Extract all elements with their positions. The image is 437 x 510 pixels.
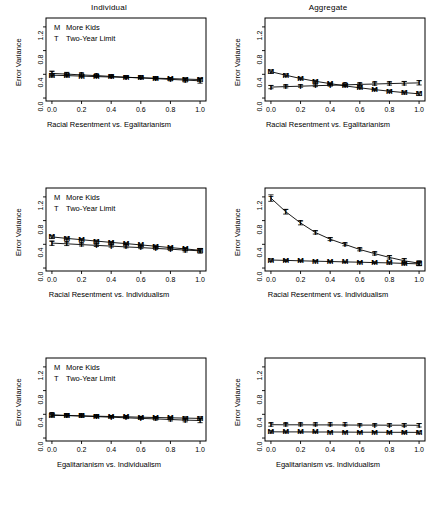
legend: MMore KidsTTwo-Year Limit bbox=[54, 362, 115, 384]
y-axis-label: Error Variance bbox=[233, 38, 242, 86]
data-marker-T: T bbox=[313, 420, 318, 429]
data-marker-T: T bbox=[153, 244, 158, 253]
legend-symbol: T bbox=[54, 374, 66, 383]
data-marker-T: T bbox=[79, 411, 84, 420]
data-marker-T: T bbox=[343, 240, 348, 249]
legend-symbol: T bbox=[54, 204, 66, 213]
legend-item: MMore Kids bbox=[54, 22, 115, 33]
data-marker-T: T bbox=[49, 69, 54, 78]
data-marker-M: M bbox=[401, 88, 408, 97]
data-marker-T: T bbox=[328, 420, 333, 429]
chart-panel-row2-right: 0.00.40.81.20.00.20.40.60.81.0MMMMMMMMMM… bbox=[219, 170, 437, 340]
data-marker-T: T bbox=[94, 241, 99, 250]
data-marker-T: T bbox=[124, 242, 129, 251]
data-marker-T: T bbox=[183, 416, 188, 425]
x-axis-label: Racial Resentment vs. Egalitarianism bbox=[219, 120, 437, 129]
plot-area: MMMMMMMMMMMTTTTTTTTTTT bbox=[219, 170, 437, 340]
data-marker-T: T bbox=[357, 245, 362, 254]
data-marker-T: T bbox=[109, 242, 114, 251]
data-marker-T: T bbox=[168, 245, 173, 254]
data-marker-M: M bbox=[268, 67, 275, 76]
data-marker-T: T bbox=[328, 235, 333, 244]
data-marker-T: T bbox=[109, 72, 114, 81]
data-marker-T: T bbox=[387, 421, 392, 430]
data-marker-T: T bbox=[268, 194, 273, 203]
data-marker-T: T bbox=[298, 82, 303, 91]
data-marker-T: T bbox=[298, 218, 303, 227]
data-marker-T: T bbox=[372, 421, 377, 430]
legend-label: More Kids bbox=[66, 23, 100, 32]
data-marker-T: T bbox=[138, 414, 143, 423]
y-axis-label: Error Variance bbox=[233, 378, 242, 426]
x-axis-label: Egalitarianism vs. Individualism bbox=[219, 460, 437, 469]
data-marker-T: T bbox=[343, 420, 348, 429]
chart-panel-row3-left: 0.00.40.81.20.00.20.40.60.81.0MMMMMMMMMM… bbox=[0, 340, 218, 510]
legend-label: More Kids bbox=[66, 193, 100, 202]
x-axis-label: Egalitarianism vs. Individualism bbox=[0, 460, 218, 469]
data-marker-T: T bbox=[372, 79, 377, 88]
data-marker-T: T bbox=[124, 413, 129, 422]
data-marker-T: T bbox=[94, 412, 99, 421]
data-marker-T: T bbox=[402, 79, 407, 88]
legend-item: MMore Kids bbox=[54, 362, 115, 373]
data-marker-T: T bbox=[313, 228, 318, 237]
data-marker-T: T bbox=[138, 243, 143, 252]
data-marker-M: M bbox=[312, 257, 319, 266]
legend: MMore KidsTTwo-Year Limit bbox=[54, 22, 115, 44]
data-marker-T: T bbox=[198, 76, 203, 85]
figure-grid: Individual0.00.40.81.20.00.20.40.60.81.0… bbox=[0, 0, 437, 510]
data-marker-T: T bbox=[387, 253, 392, 262]
data-marker-T: T bbox=[283, 420, 288, 429]
data-marker-T: T bbox=[372, 249, 377, 258]
data-marker-T: T bbox=[79, 70, 84, 79]
data-marker-T: T bbox=[283, 207, 288, 216]
data-marker-T: T bbox=[343, 80, 348, 89]
legend-symbol: M bbox=[54, 23, 66, 32]
x-axis-label: Racial Resentment vs. Egalitarianism bbox=[0, 120, 218, 129]
legend-item: TTwo-Year Limit bbox=[54, 33, 115, 44]
data-marker-T: T bbox=[138, 73, 143, 82]
data-marker-M: M bbox=[297, 256, 304, 265]
data-marker-T: T bbox=[402, 421, 407, 430]
chart-panel-row1-right: Aggregate0.00.40.81.20.00.20.40.60.81.0M… bbox=[219, 0, 437, 170]
y-axis-label: Error Variance bbox=[233, 208, 242, 256]
legend-label: Two-Year Limit bbox=[66, 34, 115, 43]
y-axis-label: Error Variance bbox=[14, 38, 23, 86]
data-marker-T: T bbox=[198, 416, 203, 425]
data-marker-T: T bbox=[283, 82, 288, 91]
data-marker-T: T bbox=[79, 240, 84, 249]
data-marker-M: M bbox=[282, 256, 289, 265]
data-marker-T: T bbox=[168, 75, 173, 84]
data-marker-M: M bbox=[327, 257, 334, 266]
data-marker-M: M bbox=[356, 258, 363, 267]
data-marker-T: T bbox=[357, 80, 362, 89]
data-marker-T: T bbox=[417, 259, 422, 268]
plot-area: MMMMMMMMMMMTTTTTTTTTTT bbox=[219, 0, 437, 170]
data-marker-T: T bbox=[183, 76, 188, 85]
data-marker-T: T bbox=[124, 73, 129, 82]
legend-item: TTwo-Year Limit bbox=[54, 373, 115, 384]
y-axis-label: Error Variance bbox=[14, 208, 23, 256]
plot-area: MMMMMMMMMMMTTTTTTTTTTT bbox=[219, 340, 437, 510]
legend-symbol: T bbox=[54, 34, 66, 43]
data-marker-M: M bbox=[342, 257, 349, 266]
data-marker-T: T bbox=[313, 81, 318, 90]
chart-panel-row3-right: 0.00.40.81.20.00.20.40.60.81.0MMMMMMMMMM… bbox=[219, 340, 437, 510]
data-marker-T: T bbox=[198, 246, 203, 255]
data-marker-T: T bbox=[64, 70, 69, 79]
x-axis-label: Racial Resentment vs. Individualism bbox=[219, 290, 437, 299]
legend: MMore KidsTTwo-Year Limit bbox=[54, 192, 115, 214]
data-marker-T: T bbox=[417, 78, 422, 87]
data-marker-T: T bbox=[417, 421, 422, 430]
data-marker-T: T bbox=[268, 83, 273, 92]
data-marker-T: T bbox=[387, 79, 392, 88]
data-marker-M: M bbox=[371, 258, 378, 267]
y-axis-label: Error Variance bbox=[14, 378, 23, 426]
data-marker-T: T bbox=[64, 411, 69, 420]
data-marker-T: T bbox=[109, 413, 114, 422]
data-marker-T: T bbox=[49, 239, 54, 248]
data-marker-M: M bbox=[416, 89, 423, 98]
legend-label: Two-Year Limit bbox=[66, 374, 115, 383]
data-marker-T: T bbox=[49, 410, 54, 419]
legend-symbol: M bbox=[54, 363, 66, 372]
